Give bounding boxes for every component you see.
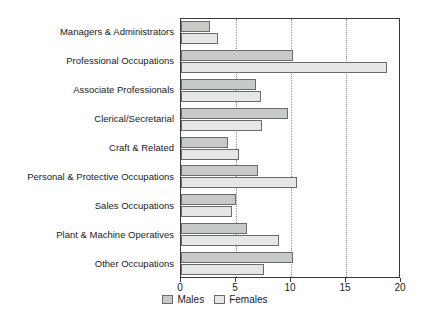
bar-females xyxy=(181,91,261,102)
bar-males xyxy=(181,21,210,32)
bar-chart: Managers & AdministratorsProfessional Oc… xyxy=(0,0,430,318)
bar-females xyxy=(181,149,239,160)
bars-layer xyxy=(181,19,399,277)
bar-males xyxy=(181,165,258,176)
category-axis: Managers & AdministratorsProfessional Oc… xyxy=(0,18,178,278)
x-tick-label: 20 xyxy=(394,282,405,293)
category-label: Professional Occupations xyxy=(66,55,174,66)
bar-females xyxy=(181,264,264,275)
legend-swatch-icon xyxy=(162,295,173,304)
bar-females xyxy=(181,120,262,131)
category-label: Associate Professionals xyxy=(73,84,174,95)
x-tick-label: 15 xyxy=(339,282,350,293)
bar-females xyxy=(181,33,218,44)
plot-area xyxy=(180,18,400,278)
bar-females xyxy=(181,206,232,217)
bar-females xyxy=(181,62,387,73)
bar-males xyxy=(181,137,228,148)
bar-females xyxy=(181,235,279,246)
bar-group xyxy=(181,135,399,164)
bar-group xyxy=(181,192,399,221)
legend-swatch-icon xyxy=(214,295,225,304)
bar-males xyxy=(181,223,247,234)
bar-group xyxy=(181,163,399,192)
category-label: Clerical/Secretarial xyxy=(94,113,174,124)
category-label: Plant & Machine Operatives xyxy=(56,229,174,240)
bar-females xyxy=(181,177,297,188)
x-tick-label: 0 xyxy=(177,282,183,293)
category-label: Personal & Protective Occupations xyxy=(27,171,174,182)
bar-males xyxy=(181,194,236,205)
chart-legend: MalesFemales xyxy=(0,294,430,305)
bar-group xyxy=(181,19,399,48)
bar-males xyxy=(181,252,293,263)
category-label: Sales Occupations xyxy=(95,200,174,211)
category-label: Other Occupations xyxy=(95,258,174,269)
legend-label: Females xyxy=(229,294,267,305)
bar-group xyxy=(181,48,399,77)
bar-group xyxy=(181,221,399,250)
legend-label: Males xyxy=(177,294,204,305)
bar-group xyxy=(181,250,399,279)
category-label: Craft & Related xyxy=(109,142,174,153)
bar-group xyxy=(181,106,399,135)
x-tick-label: 10 xyxy=(284,282,295,293)
bar-males xyxy=(181,79,256,90)
bar-males xyxy=(181,50,293,61)
bar-group xyxy=(181,77,399,106)
x-tick-label: 5 xyxy=(232,282,238,293)
legend-item-females: Females xyxy=(214,294,267,305)
category-label: Managers & Administrators xyxy=(60,26,174,37)
legend-item-males: Males xyxy=(162,294,204,305)
bar-males xyxy=(181,108,288,119)
